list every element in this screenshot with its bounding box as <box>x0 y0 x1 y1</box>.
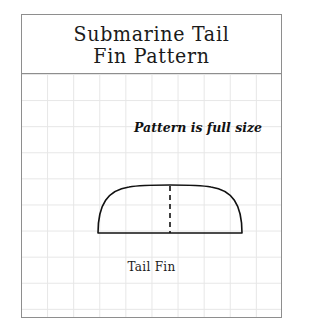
tail-fin-drawing <box>22 74 281 317</box>
page-title-line-1: Submarine Tail <box>74 21 230 45</box>
grid-area: Pattern is full size Tail Fin <box>22 74 281 317</box>
title-block: Submarine Tail Fin Pattern <box>22 15 281 74</box>
page-title-line-2: Fin Pattern <box>93 43 209 67</box>
pattern-sheet: Submarine Tail Fin Pattern Pattern is fu… <box>21 14 282 318</box>
tail-fin-label: Tail Fin <box>22 260 281 274</box>
